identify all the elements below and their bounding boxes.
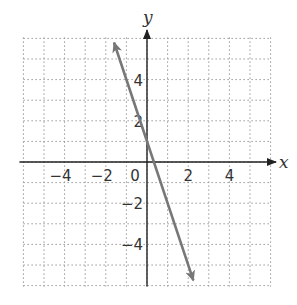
x-tick-label: 2 [183,167,193,185]
axes [19,30,276,287]
x-tick-label: −2 [91,167,113,185]
y-tick-label: −2 [121,195,143,213]
y-tick-label: 4 [133,72,143,90]
coordinate-plane: −4−2024−4−224 x y [0,0,297,305]
x-tick-label: −4 [50,167,72,185]
tick-labels: −4−2024−4−224 [50,72,235,255]
x-axis-label: x [279,152,289,172]
x-tick-label: 0 [130,167,140,185]
x-tick-label: 4 [225,167,235,185]
y-tick-label: −4 [121,236,143,254]
y-axis-label: y [142,7,153,27]
